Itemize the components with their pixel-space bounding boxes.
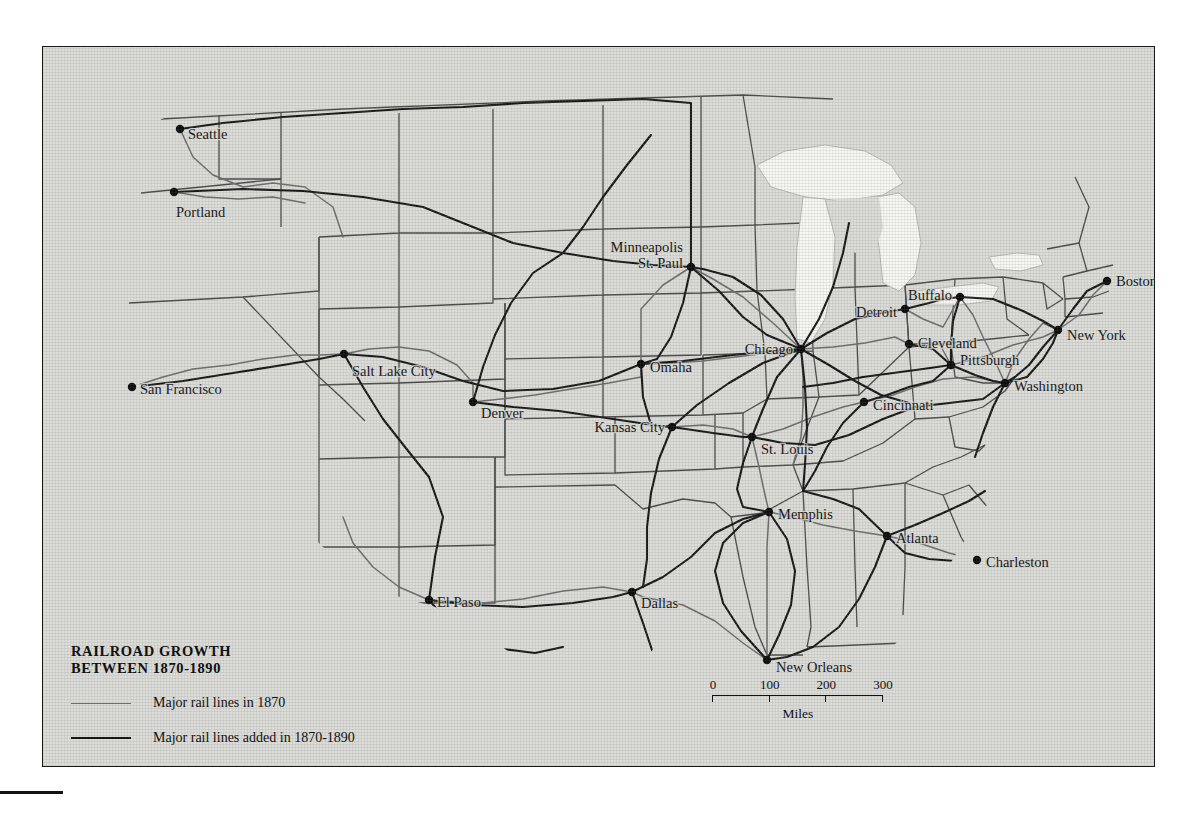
city-label: Omaha: [650, 359, 692, 375]
city-dot: [797, 345, 805, 353]
city-label: Minneapolis: [611, 239, 684, 255]
city-marker: San Francisco: [128, 381, 222, 397]
city-marker: St. Paul: [638, 255, 683, 271]
city-label: Washington: [1014, 378, 1084, 394]
legend-item-added: Major rail lines added in 1870-1890: [71, 730, 491, 746]
city-dot: [687, 263, 695, 271]
city-dot: [947, 361, 955, 369]
map-page: SeattlePortlandSan FranciscoSalt Lake Ci…: [0, 0, 1195, 819]
city-dot: [1103, 277, 1111, 285]
city-marker: New Orleans: [763, 656, 853, 675]
city-dot: [637, 360, 645, 368]
scale-rule: [713, 695, 883, 704]
map-title: RAILROAD GROWTH BETWEEN 1870-1890: [71, 643, 491, 677]
scale-tick-label: 100: [760, 677, 780, 693]
city-label: Cincinnati: [873, 397, 933, 413]
map-legend: RAILROAD GROWTH BETWEEN 1870-1890 Major …: [71, 643, 491, 765]
city-dot: [1054, 326, 1062, 334]
city-dot: [765, 508, 773, 516]
city-label: Atlanta: [896, 530, 939, 546]
city-label: New Orleans: [776, 659, 852, 675]
city-dot: [763, 656, 771, 664]
city-marker: Kansas City: [595, 419, 677, 435]
city-label: St. Paul: [638, 255, 683, 271]
scale-tick-mark: [769, 695, 770, 702]
scale-tick-labels: 0100200300: [713, 677, 883, 693]
city-dot: [628, 588, 636, 596]
city-label: El Paso: [437, 594, 481, 610]
city-dot: [860, 398, 868, 406]
city-label: Boston: [1116, 273, 1155, 289]
city-dot: [425, 596, 433, 604]
city-dot: [905, 340, 913, 348]
scale-tick-label: 200: [817, 677, 837, 693]
legend-item-1870: Major rail lines in 1870: [71, 695, 491, 711]
scale-tick-mark: [712, 695, 713, 702]
city-label: St. Louis: [761, 441, 814, 457]
city-label: Kansas City: [595, 419, 666, 435]
city-dot: [340, 350, 348, 358]
city-label: Pittsburgh: [960, 352, 1020, 368]
scale-tick-mark: [825, 695, 826, 702]
legend-label-added: Major rail lines added in 1870-1890: [153, 730, 355, 746]
page-bottom-rule: [0, 791, 63, 794]
legend-label-1870: Major rail lines in 1870: [153, 695, 285, 711]
city-dot: [883, 532, 891, 540]
city-label: Buffalo: [908, 287, 952, 303]
city-label: Salt Lake City: [352, 363, 437, 379]
scale-unit-label: Miles: [683, 706, 913, 722]
city-dot: [973, 556, 981, 564]
city-dot: [1001, 379, 1009, 387]
city-label: Chicago: [745, 341, 793, 357]
city-label: New York: [1067, 327, 1127, 343]
scale-bar: 0100200300 Miles: [683, 677, 913, 722]
scale-axis-line: [713, 695, 883, 696]
city-marker: Washington: [1001, 378, 1084, 394]
city-dot: [901, 305, 909, 313]
scale-tick-mark: [882, 695, 883, 702]
city-label: Memphis: [778, 506, 833, 522]
city-marker: Boston: [1103, 273, 1155, 289]
city-dot: [128, 383, 136, 391]
legend-line-swatch-added: [71, 737, 131, 739]
city-dot: [956, 293, 964, 301]
scale-tick-label: 0: [710, 677, 717, 693]
city-label: Seattle: [188, 126, 227, 142]
city-dot: [668, 423, 676, 431]
city-label: Cleveland: [918, 335, 978, 351]
map-frame: SeattlePortlandSan FranciscoSalt Lake Ci…: [42, 46, 1155, 767]
city-dot: [176, 125, 184, 133]
city-label: Portland: [176, 204, 226, 220]
city-label: Detroit: [856, 304, 897, 320]
city-label: Dallas: [641, 595, 678, 611]
city-label: Denver: [481, 405, 524, 421]
lake-huron: [875, 193, 921, 291]
legend-line-swatch-1870: [71, 703, 131, 704]
city-dot: [170, 188, 178, 196]
scale-tick-label: 300: [873, 677, 893, 693]
city-dot: [748, 433, 756, 441]
city-label: Charleston: [986, 554, 1050, 570]
city-label: San Francisco: [140, 381, 222, 397]
city-marker: Charleston: [973, 554, 1050, 570]
city-marker: New York: [1054, 326, 1127, 343]
city-dot: [469, 398, 477, 406]
